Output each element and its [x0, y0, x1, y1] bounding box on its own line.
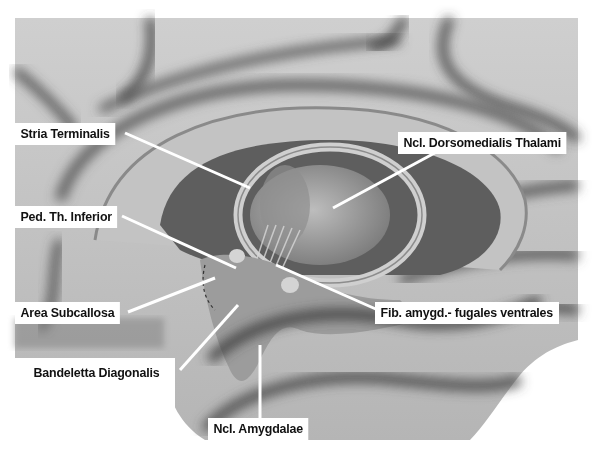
- label-bandeletta-diagonalis: Bandeletta Diagonalis: [28, 362, 165, 384]
- label-ncl-amygdalae: Ncl. Amygdalae: [208, 418, 309, 440]
- label-ncl-dorsomedialis-thalami: Ncl. Dorsomedialis Thalami: [398, 132, 566, 154]
- brain-diagram: Stria Terminalis Ncl. Dorsomedialis Thal…: [0, 0, 594, 453]
- label-ped-th-inferior: Ped. Th. Inferior: [15, 206, 117, 228]
- label-stria-terminalis: Stria Terminalis: [15, 123, 115, 145]
- label-area-subcallosa: Area Subcallosa: [15, 302, 120, 324]
- label-fib-amygd-fugales-ventrales: Fib. amygd.- fugales ventrales: [375, 302, 559, 324]
